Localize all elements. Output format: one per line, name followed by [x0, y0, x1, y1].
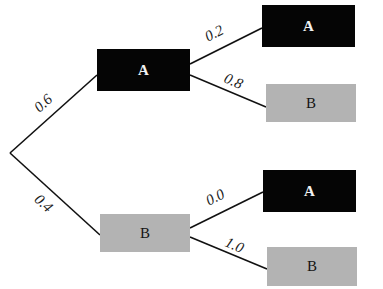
node-level1-B: B	[100, 214, 190, 252]
node-level2-B-given-A: B	[266, 84, 356, 122]
edge-root-to-B	[10, 153, 100, 235]
node-label: B	[140, 225, 150, 242]
edge-A-to-A	[190, 28, 262, 64]
node-label: A	[138, 62, 149, 79]
node-label: A	[304, 183, 315, 200]
node-level2-A-given-A: A	[262, 5, 355, 47]
node-level2-B-given-B: B	[267, 247, 357, 286]
node-label: B	[307, 258, 317, 275]
node-level2-A-given-B: A	[263, 170, 356, 212]
edge-root-to-A	[10, 75, 97, 153]
node-label: B	[306, 95, 316, 112]
node-label: A	[303, 18, 314, 35]
node-level1-A: A	[97, 49, 190, 91]
